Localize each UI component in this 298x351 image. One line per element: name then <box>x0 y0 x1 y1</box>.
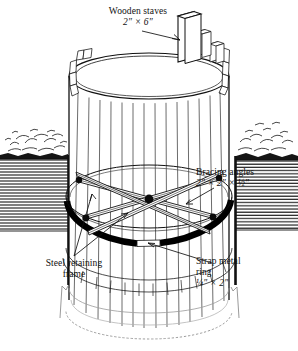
rim-stave <box>83 49 92 60</box>
callout-strap-metal-ring-line1: Strap metal <box>196 256 241 267</box>
soil-hatch-left <box>0 159 68 231</box>
callout-strap-metal-ring-line2: ring <box>196 267 241 278</box>
callout-steel-retaining-frame: Steel retaining frame <box>22 258 126 280</box>
callout-wooden-staves: Wooden staves 2″ × 6″ <box>86 6 190 28</box>
brace-node-upper-left <box>76 177 82 183</box>
callout-bracing-angles: Bracing angles 2″ × 2″ × ½″ <box>196 167 254 189</box>
rim-stave <box>222 74 229 88</box>
grass-texture-right <box>238 122 293 151</box>
cistern-diagram-figure: Wooden staves 2″ × 6″ Bracing angles 2″ … <box>0 0 298 351</box>
callout-bracing-angles-line2: 2″ × 2″ × ½″ <box>196 178 254 189</box>
brace-node-lower-right <box>210 214 217 221</box>
rim-stave-step-side <box>202 32 211 58</box>
brace-center-gusset <box>145 195 154 204</box>
rim-stave <box>223 61 230 76</box>
callout-strap-metal-ring-line3: ¼″ × 2″ <box>196 278 241 289</box>
callout-steel-retaining-frame-line1: Steel retaining <box>22 258 126 269</box>
callout-wooden-staves-line1: Wooden staves <box>86 6 190 17</box>
callout-bracing-angles-line1: Bracing angles <box>196 167 254 178</box>
callout-steel-retaining-frame-line2: frame <box>22 269 126 280</box>
rim-stave-step-side <box>216 44 224 64</box>
grass-texture-left <box>5 129 67 151</box>
ground-earth-left <box>0 129 68 231</box>
callout-wooden-staves-line2: 2″ × 6″ <box>86 17 190 28</box>
callout-strap-metal-ring: Strap metal ring ¼″ × 2″ <box>196 256 241 290</box>
rim-stave <box>70 72 77 86</box>
